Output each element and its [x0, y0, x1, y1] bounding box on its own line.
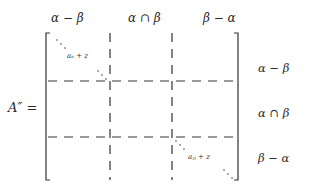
- diagonal-entry-aii: aᵢᵢ + z: [67, 52, 88, 60]
- diagonal-entry-ajj: aⱼⱼ + z: [188, 153, 210, 161]
- row-label-alpha-cap-beta: α ∩ β: [258, 106, 289, 120]
- row-label-beta-minus-alpha: β − α: [258, 151, 289, 165]
- row-label-alpha-minus-beta: α − β: [258, 61, 289, 75]
- left-bracket: [46, 33, 50, 180]
- right-bracket: [234, 33, 238, 180]
